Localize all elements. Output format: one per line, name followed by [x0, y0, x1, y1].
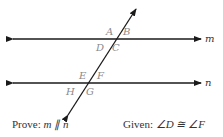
- prove-statement: m ∥ n: [43, 118, 68, 130]
- prove-prefix: Prove:: [12, 118, 43, 130]
- diagram-canvas: m n A B D C E F H G: [0, 0, 223, 137]
- angle-label-g: G: [86, 86, 94, 97]
- angle-label-b: B: [122, 26, 130, 37]
- transversal-line: [68, 9, 136, 115]
- angle-label-c: C: [112, 42, 120, 53]
- prove-caption: Prove: m ∥ n: [12, 118, 68, 131]
- given-statement: ∠D ≅ ∠F: [156, 118, 205, 130]
- line-n-label: n: [205, 77, 211, 88]
- given-prefix: Given:: [123, 118, 156, 130]
- angle-label-d: D: [95, 42, 104, 53]
- angle-label-f: F: [96, 70, 105, 81]
- angle-label-h: H: [65, 86, 75, 97]
- line-m-label: m: [205, 33, 214, 44]
- angle-label-a: A: [105, 26, 113, 37]
- angle-label-e: E: [78, 70, 87, 81]
- given-caption: Given: ∠D ≅ ∠F: [123, 118, 205, 131]
